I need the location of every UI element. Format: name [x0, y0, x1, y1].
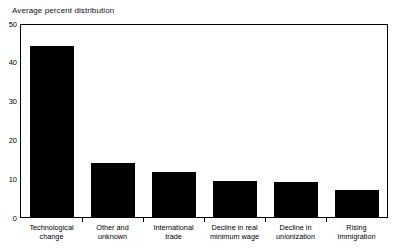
y-tick-label-30: 30 — [1, 98, 17, 106]
plot-area — [21, 24, 387, 218]
bar-slot — [143, 24, 204, 218]
bar-slot — [265, 24, 326, 218]
bar-series — [21, 24, 387, 218]
bar-decline-in-real-minimum-wage — [213, 181, 257, 218]
bar-slot — [82, 24, 143, 218]
x-tick-label-international-trade: International trade — [143, 223, 204, 241]
x-tick-label-line: Other and — [82, 223, 143, 232]
y-tick-label-10: 10 — [1, 176, 17, 184]
bar-technological-change — [30, 46, 74, 218]
y-tick-label-40: 40 — [1, 59, 17, 67]
x-tick-label-line: Technological — [21, 223, 82, 232]
y-tick-label-50: 50 — [1, 21, 17, 29]
x-tick-label-technological-change: Technological change — [21, 223, 82, 241]
x-tick-label-line: unionization — [265, 232, 326, 241]
bar-international-trade — [152, 172, 196, 218]
x-tick-label-line: Immigration — [326, 232, 387, 241]
y-tick-label-20: 20 — [1, 137, 17, 145]
x-tick-label-line: change — [21, 232, 82, 241]
bar-slot — [326, 24, 387, 218]
bar-other-and-unknown — [91, 163, 135, 218]
x-tick-label-line: Decline in — [265, 223, 326, 232]
bar-slot — [204, 24, 265, 218]
y-tick-label-0: 0 — [1, 215, 17, 223]
x-tick-mark-3 — [204, 218, 205, 222]
bar-slot — [21, 24, 82, 218]
x-tick-label-rising-immigration: Rising Immigration — [326, 223, 387, 241]
x-tick-label-line: trade — [143, 232, 204, 241]
x-tick-mark-1 — [82, 218, 83, 222]
chart-title: Average percent distribution — [12, 6, 114, 15]
x-tick-label-other-and-unknown: Other and unknown — [82, 223, 143, 241]
chart-figure: Average percent distribution 50 40 30 20… — [0, 0, 395, 249]
x-tick-mark-2 — [143, 218, 144, 222]
bar-rising-immigration — [335, 190, 379, 218]
x-tick-label-line: International — [143, 223, 204, 232]
x-axis-tick-labels: Technological change Other and unknown I… — [21, 223, 387, 241]
x-tick-label-line: unknown — [82, 232, 143, 241]
y-axis-tick-labels: 50 40 30 20 10 0 — [0, 0, 17, 249]
x-tick-label-decline-in-unionization: Decline in unionization — [265, 223, 326, 241]
bar-decline-in-unionization — [274, 182, 318, 218]
x-tick-label-decline-in-real-minimum-wage: Decline in real minimum wage — [204, 223, 265, 241]
x-tick-mark-4 — [265, 218, 266, 222]
x-tick-label-line: minimum wage — [204, 232, 265, 241]
x-tick-label-line: Decline in real — [204, 223, 265, 232]
x-tick-mark-5 — [326, 218, 327, 222]
x-tick-label-line: Rising — [326, 223, 387, 232]
